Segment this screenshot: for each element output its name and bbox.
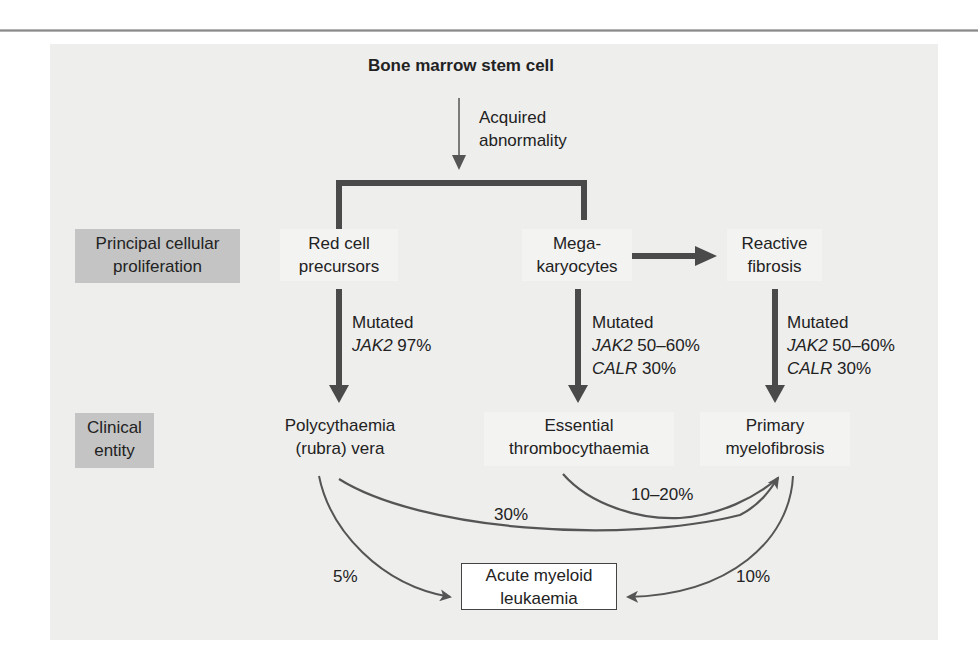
row-label-line: Principal cellular [75, 232, 240, 255]
et-mutation-arrow [568, 289, 588, 403]
pct-et-to-mf: 10–20% [631, 485, 693, 505]
pct-mf-to-aml: 10% [736, 567, 770, 587]
mutation-label-pv: Mutated JAK2 97% [352, 311, 431, 357]
node-line: Reactive [727, 232, 822, 255]
mutation-gene-line: JAK2 97% [352, 334, 431, 357]
node-line: myelofibrosis [700, 437, 850, 460]
pct-pv-to-mf: 30% [494, 505, 528, 525]
node-line: thrombocythaemia [484, 437, 674, 460]
row-label-line: Clinical [75, 416, 154, 439]
node-line: fibrosis [727, 255, 822, 278]
mutated-text: Mutated [787, 311, 895, 334]
node-line: Red cell [280, 232, 398, 255]
mutation-gene-line: CALR 30% [787, 357, 895, 380]
node-line: Acute myeloid [462, 564, 616, 587]
node-line: Primary [700, 414, 850, 437]
node-line: karyocytes [522, 255, 632, 278]
mutation-gene-line: JAK2 50–60% [592, 334, 700, 357]
branch-bracket [339, 183, 584, 232]
node-line: Mega- [522, 232, 632, 255]
mutation-gene-line: CALR 30% [592, 357, 700, 380]
root-label: Bone marrow stem cell [368, 56, 554, 75]
gene-name: JAK2 [787, 336, 828, 355]
gene-frequency: 50–60% [828, 336, 895, 355]
gene-name: CALR [592, 359, 637, 378]
node-line: Essential [484, 414, 674, 437]
node-primary-myelofibrosis: Primary myelofibrosis [700, 412, 850, 466]
mutated-text: Mutated [352, 311, 431, 334]
mutation-gene-line: JAK2 50–60% [787, 334, 895, 357]
acquired-abnormality-arrow [452, 98, 466, 170]
gene-name: CALR [787, 359, 832, 378]
mutation-label-et: Mutated JAK2 50–60% CALR 30% [592, 311, 700, 380]
node-megakaryocytes: Mega- karyocytes [522, 229, 632, 281]
node-red-cell-precursors: Red cell precursors [280, 229, 398, 281]
pv-to-mf-curve [339, 478, 778, 530]
gene-name: JAK2 [592, 336, 633, 355]
gene-frequency: 30% [832, 359, 871, 378]
node-line: precursors [280, 255, 398, 278]
acquired-line: Acquired [479, 106, 567, 129]
mutated-text: Mutated [592, 311, 700, 334]
row-label-line: proliferation [75, 255, 240, 278]
gene-name: JAK2 [352, 336, 393, 355]
node-line: (rubra) vera [265, 437, 415, 460]
acquired-abnormality-label: Acquired abnormality [479, 106, 567, 152]
row-label-line: entity [75, 439, 154, 462]
root-node-stem-cell: Bone marrow stem cell [346, 54, 576, 77]
pv-mutation-arrow [329, 289, 349, 403]
gene-frequency: 30% [637, 359, 676, 378]
gene-frequency: 50–60% [633, 336, 700, 355]
row-label-clinical: Clinical entity [75, 413, 154, 468]
node-reactive-fibrosis: Reactive fibrosis [727, 229, 822, 281]
node-line: leukaemia [462, 587, 616, 610]
node-line: Polycythaemia [265, 414, 415, 437]
megakaryocyte-to-fibrosis-arrow [632, 246, 717, 266]
mf-mutation-arrow [765, 289, 785, 403]
mutation-label-mf: Mutated JAK2 50–60% CALR 30% [787, 311, 895, 380]
gene-frequency: 97% [393, 336, 432, 355]
pct-pv-to-aml: 5% [333, 567, 358, 587]
row-label-proliferation: Principal cellular proliferation [75, 229, 240, 283]
abnormality-line: abnormality [479, 129, 567, 152]
node-essential-thrombocythaemia: Essential thrombocythaemia [484, 412, 674, 466]
node-polycythaemia-vera: Polycythaemia (rubra) vera [265, 414, 415, 460]
node-acute-myeloid-leukaemia: Acute myeloid leukaemia [461, 563, 617, 610]
